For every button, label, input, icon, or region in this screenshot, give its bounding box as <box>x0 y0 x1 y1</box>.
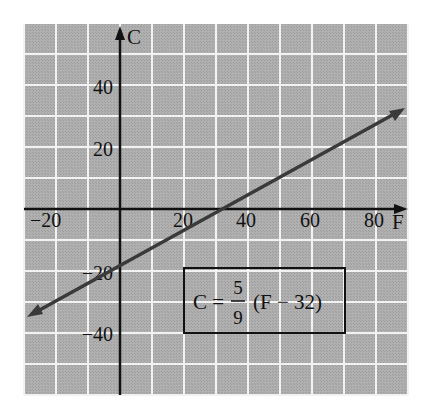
y-tick-label: 40 <box>93 76 113 98</box>
equation-rhs: (F − 32) <box>253 290 322 314</box>
x-tick-label: −20 <box>30 209 61 231</box>
x-tick-label: 40 <box>236 209 256 231</box>
x-tick-label: 80 <box>364 209 384 231</box>
celsius-fahrenheit-graph: C F −20 20 40 60 80 40 20 −20 −40 C = 5 … <box>0 0 427 414</box>
x-tick-label: 60 <box>300 209 320 231</box>
y-axis-label: C <box>127 25 141 49</box>
equation-numerator: 5 <box>233 277 243 298</box>
equation-lhs: C = <box>193 290 224 314</box>
y-tick-label: 20 <box>93 138 113 160</box>
y-tick-label: −40 <box>82 323 113 345</box>
x-axis-label: F <box>392 210 404 234</box>
equation-denominator: 9 <box>233 307 243 328</box>
